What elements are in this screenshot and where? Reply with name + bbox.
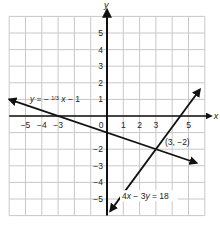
y-tick-label: −5 (93, 194, 103, 204)
intersection-label: (3, −2) (165, 137, 190, 147)
graph-canvas: xy −5−4−30123554321−2−3−4−5 y = − 1/3 x … (0, 0, 220, 226)
line-2-label: 4x − 3y = 18 (122, 191, 169, 201)
y-tick-label: −4 (93, 177, 103, 187)
y-tick-label: −2 (93, 144, 103, 154)
y-tick-label: 2 (98, 78, 103, 88)
x-tick-label: 3 (154, 120, 159, 130)
y-tick-label: 3 (98, 61, 103, 71)
x-axis-label: x (213, 111, 219, 121)
y-tick-label: 1 (98, 94, 103, 104)
y-axis-label: y (103, 0, 109, 10)
x-tick-label: 5 (186, 120, 191, 130)
y-tick-label: 5 (98, 28, 103, 38)
line-1-label: y = − 1/3 x − 1 (29, 94, 80, 104)
x-tick-label: 0 (99, 120, 104, 130)
x-tick-label: 2 (137, 120, 142, 130)
y-tick-label: 4 (98, 45, 103, 55)
x-tick-label: −3 (53, 120, 63, 130)
coordinate-graph: xy −5−4−30123554321−2−3−4−5 y = − 1/3 x … (0, 0, 220, 226)
y-tick-label: −3 (93, 161, 103, 171)
x-tick-label: −5 (21, 120, 31, 130)
line-labels: y = − 1/3 x − 14x − 3y = 18(3, −2) (29, 94, 190, 201)
x-tick-label: 1 (121, 120, 126, 130)
x-tick-label: −4 (37, 120, 47, 130)
